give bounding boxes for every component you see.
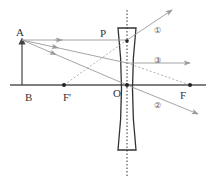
- back-focus-point: [188, 83, 192, 87]
- label-f: F: [180, 89, 186, 101]
- label-b: B: [25, 91, 32, 103]
- label-a: A: [16, 26, 24, 38]
- ray-3-midarrow: [52, 47, 58, 48]
- label-f-prime: F': [63, 91, 71, 103]
- label-p: P: [100, 27, 106, 39]
- ray-1-refracted: [127, 10, 172, 40]
- lens-point-p: [125, 39, 129, 43]
- ray-3-extension: [127, 63, 190, 85]
- front-focus-point: [62, 83, 66, 87]
- ray-label-2: ②: [154, 101, 161, 110]
- ray-2-midarrow: [50, 52, 56, 55]
- ray-2-refracted: [127, 85, 198, 114]
- lens-diagram: A B F' O F P ① ② ③: [0, 0, 214, 183]
- ray-label-3: ③: [154, 56, 161, 65]
- optical-center-point: [125, 83, 129, 87]
- ray-2-incident: [22, 40, 127, 85]
- label-o: O: [113, 87, 121, 99]
- ray-label-1: ①: [154, 26, 161, 35]
